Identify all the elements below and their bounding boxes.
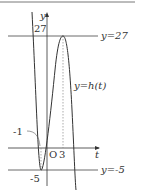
curve-h (32, 12, 76, 190)
t-axis-label: t (95, 149, 100, 160)
label-y-27: y=27 (100, 30, 128, 41)
tick-27: 27 (34, 23, 47, 34)
curve-label: y=h(t) (73, 80, 106, 91)
origin-label: O (49, 149, 57, 160)
tick-minus1: -1 (13, 126, 23, 137)
label-y-minus5: y=-5 (100, 164, 125, 175)
y-axis-label: y (39, 10, 46, 21)
tick-3: 3 (59, 149, 65, 160)
tick-minus5: -5 (30, 173, 40, 184)
graph: y 27 y=27 y=h(t) -1 O 3 t y=-5 -5 (0, 0, 141, 194)
